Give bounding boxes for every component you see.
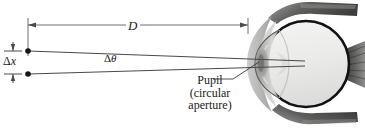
x-symbol: x — [11, 54, 16, 68]
delta-symbol: Δ — [3, 54, 11, 68]
label-separation-delta-x: Δx — [3, 55, 16, 68]
eye-angular-resolution-figure: D Δx Δθ Pupil (circular aperture) — [0, 0, 365, 128]
dimension-arrowhead-left — [28, 22, 36, 27]
pupil-label-line-3: aperture) — [173, 99, 247, 112]
pupil-label-line-1: Pupil — [173, 74, 247, 87]
label-distance-D: D — [128, 19, 137, 33]
theta-symbol: θ — [111, 52, 116, 64]
dimension-arrowhead-right — [240, 22, 248, 27]
label-angle-delta-theta: Δθ — [104, 53, 116, 65]
label-pupil-annotation: Pupil (circular aperture) — [173, 74, 247, 112]
pupil-core — [258, 54, 264, 72]
eye-illustration — [247, 2, 365, 124]
source-point-lower — [25, 71, 31, 77]
delta-x-arrowhead-upper — [11, 44, 15, 51]
delta-x-arrowhead-lower — [11, 74, 15, 81]
distance-dimension-D — [28, 18, 248, 56]
source-point-upper — [25, 48, 31, 54]
